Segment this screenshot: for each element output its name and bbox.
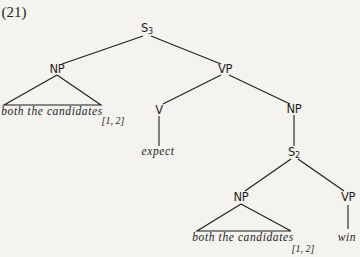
node-s2-subscript: 2 — [295, 151, 300, 160]
node-np-subject: NP — [50, 64, 65, 76]
terminal-subject: both the candidates — [1, 106, 102, 118]
node-v: V — [155, 105, 163, 117]
node-np-object: NP — [287, 104, 302, 116]
terminal-expect: expect — [142, 146, 175, 158]
node-s2: S2 — [288, 147, 300, 160]
example-number: (21) — [2, 5, 27, 20]
tree-branches — [0, 0, 360, 257]
node-s2-label: S — [288, 145, 295, 159]
node-s3: S3 — [141, 23, 153, 36]
terminal-embedded-np: both the candidates — [192, 232, 293, 244]
node-s3-label: S — [141, 21, 148, 35]
node-s3-subscript: 3 — [148, 27, 153, 36]
node-vp-embedded: VP — [341, 192, 355, 204]
node-np-embedded: NP — [234, 192, 249, 204]
node-vp-main: VP — [218, 64, 232, 76]
index-embedded: [1, 2] — [292, 244, 315, 254]
terminal-win: win — [338, 232, 356, 244]
index-subject: [1, 2] — [102, 116, 125, 126]
